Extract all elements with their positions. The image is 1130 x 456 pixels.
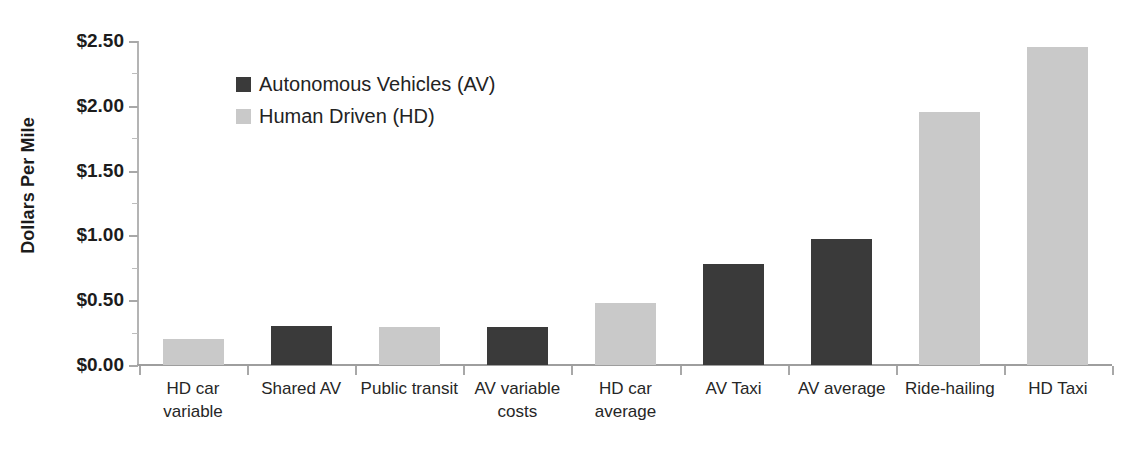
x-axis-category-label: HD car variable [139, 378, 247, 424]
x-axis-category-label: AV variable costs [463, 378, 571, 424]
x-axis-tick [247, 366, 249, 375]
y-axis-minor-tick [132, 203, 138, 204]
legend-item[interactable]: Human Driven (HD) [236, 100, 616, 132]
x-axis-tick [1112, 366, 1114, 375]
bar-chart: Dollars Per Mile $0.00$0.50$1.00$1.50$2.… [0, 0, 1130, 456]
y-axis-major-tick [129, 41, 138, 43]
bar [811, 239, 872, 365]
x-axis-category-labels: HD car variableShared AVPublic transitAV… [139, 378, 1112, 438]
y-axis-major-tick [129, 171, 138, 173]
y-axis-tick-label: $1.00 [44, 224, 124, 246]
chart-legend: Autonomous Vehicles (AV)Human Driven (HD… [236, 68, 616, 132]
y-axis-tick-label: $0.00 [44, 354, 124, 376]
y-axis-title-text: Dollars Per Mile [18, 117, 39, 254]
bar [271, 326, 332, 365]
x-axis-tick [571, 366, 573, 375]
y-axis-tick-label: $2.50 [44, 30, 124, 52]
y-axis-major-tick [129, 300, 138, 302]
x-axis-tick [896, 366, 898, 375]
y-axis-major-tick [129, 106, 138, 108]
bar [595, 303, 656, 365]
y-axis-major-tick [129, 365, 138, 367]
x-axis-tick [355, 366, 357, 375]
bar [379, 327, 440, 365]
legend-item[interactable]: Autonomous Vehicles (AV) [236, 68, 616, 100]
y-axis-tick-labels: $0.00$0.50$1.00$1.50$2.00$2.50 [44, 28, 124, 378]
y-axis-minor-tick [132, 138, 138, 139]
legend-swatch-av [236, 77, 251, 92]
x-axis-category-label: AV average [788, 378, 896, 401]
x-axis-tick [788, 366, 790, 375]
x-axis-tick [680, 366, 682, 375]
legend-swatch-hd [236, 109, 251, 124]
bar [703, 264, 764, 365]
y-axis-tick-label: $1.50 [44, 160, 124, 182]
legend-item-label: Human Driven (HD) [259, 105, 435, 128]
x-axis-category-label: HD car average [571, 378, 679, 424]
x-axis-category-label: Public transit [355, 378, 463, 401]
x-axis-tick [463, 366, 465, 375]
x-axis-category-label: HD Taxi [1004, 378, 1112, 401]
y-axis-tick-label: $0.50 [44, 289, 124, 311]
x-axis-category-label: AV Taxi [680, 378, 788, 401]
x-axis-category-label: Ride-hailing [896, 378, 1004, 401]
x-axis-tick [139, 366, 141, 375]
bar [919, 112, 980, 365]
bar [487, 327, 548, 365]
x-axis-category-label: Shared AV [247, 378, 355, 401]
y-axis-minor-tick [132, 73, 138, 74]
y-axis-minor-tick [132, 268, 138, 269]
x-axis-tick [1004, 366, 1006, 375]
bar [163, 339, 224, 365]
y-axis-minor-tick [132, 333, 138, 334]
legend-item-label: Autonomous Vehicles (AV) [259, 73, 495, 96]
y-axis-tick-label: $2.00 [44, 95, 124, 117]
bar [1027, 47, 1088, 365]
y-axis-major-tick [129, 235, 138, 237]
